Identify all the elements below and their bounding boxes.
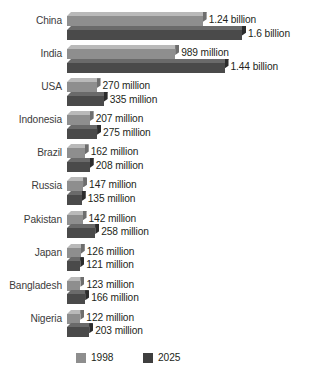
- bar-brazil-2025[interactable]: [67, 158, 90, 173]
- face-front: [67, 228, 95, 238]
- chart-row: Nigeria122 million203 million: [0, 309, 315, 342]
- category-label-china: China: [0, 15, 62, 26]
- chart-row: USA270 million335 million: [0, 77, 315, 110]
- face-side: [89, 323, 93, 333]
- bar-india-2025[interactable]: [67, 59, 225, 74]
- value-label-nigeria-2025: 203 million: [95, 325, 143, 336]
- category-label-nigeria: Nigeria: [0, 313, 62, 324]
- face-front: [67, 129, 97, 139]
- chart-row: China1.24 billion1.6 billion: [0, 11, 315, 44]
- bar-body: [67, 228, 95, 238]
- value-label-india-2025: 1.44 billion: [231, 61, 279, 72]
- face-front: [67, 16, 203, 26]
- bar-body: [67, 129, 97, 139]
- value-label-india-1998: 989 million: [181, 47, 229, 58]
- face-side: [97, 125, 101, 135]
- face-front: [67, 162, 90, 172]
- legend-item-1998[interactable]: 1998: [76, 352, 113, 363]
- face-front: [67, 115, 90, 125]
- legend-label-1998: 1998: [91, 352, 113, 363]
- value-label-pakistan-1998: 142 million: [89, 213, 137, 224]
- value-label-japan-2025: 121 million: [86, 259, 134, 270]
- value-label-bangladesh-1998: 123 million: [86, 279, 134, 290]
- chart-row: Russia147 million135 million: [0, 176, 315, 209]
- face-front: [67, 49, 175, 59]
- bar-indonesia-2025[interactable]: [67, 125, 97, 140]
- face-side: [80, 310, 84, 320]
- value-label-brazil-2025: 208 million: [96, 160, 144, 171]
- value-label-bangladesh-2025: 166 million: [91, 292, 139, 303]
- face-side: [97, 78, 101, 88]
- bar-body: [67, 162, 90, 172]
- category-label-japan: Japan: [0, 247, 62, 258]
- value-label-indonesia-2025: 275 million: [103, 127, 151, 138]
- bar-russia-2025[interactable]: [67, 191, 82, 206]
- face-side: [82, 191, 86, 201]
- value-label-brazil-1998: 162 million: [91, 146, 139, 157]
- bar-usa-2025[interactable]: [67, 92, 104, 107]
- chart-plot-area: China1.24 billion1.6 billionIndia989 mil…: [0, 11, 315, 342]
- face-side: [95, 224, 99, 234]
- bar-body: [67, 195, 82, 205]
- bar-body: [67, 115, 90, 125]
- chart-legend: 1998 2025: [0, 352, 315, 368]
- face-front: [67, 181, 83, 191]
- face-front: [67, 96, 104, 106]
- face-front: [67, 82, 97, 92]
- chart-row: India989 million1.44 billion: [0, 44, 315, 77]
- face-side: [81, 244, 85, 254]
- category-label-brazil: Brazil: [0, 147, 62, 158]
- chart-row: Indonesia207 million275 million: [0, 110, 315, 143]
- face-side: [83, 177, 87, 187]
- legend-swatch-1998: [76, 353, 86, 363]
- face-side: [80, 257, 84, 267]
- value-label-indonesia-1998: 207 million: [96, 113, 144, 124]
- bar-pakistan-2025[interactable]: [67, 224, 95, 239]
- face-side: [242, 26, 246, 36]
- bar-body: [67, 261, 80, 271]
- category-label-pakistan: Pakistan: [0, 214, 62, 225]
- category-label-russia: Russia: [0, 180, 62, 191]
- face-side: [90, 111, 94, 121]
- face-side: [85, 290, 89, 300]
- bar-body: [67, 30, 242, 40]
- value-label-japan-1998: 126 million: [87, 246, 135, 257]
- chart-row: Bangladesh123 million166 million: [0, 276, 315, 309]
- bar-body: [67, 82, 97, 92]
- chart-row: Pakistan142 million258 million: [0, 210, 315, 243]
- value-label-china-2025: 1.6 billion: [248, 28, 290, 39]
- value-label-russia-1998: 147 million: [89, 179, 137, 190]
- chart-row: Japan126 million121 million: [0, 243, 315, 276]
- bar-bangladesh-2025[interactable]: [67, 290, 85, 305]
- face-side: [85, 144, 89, 154]
- face-side: [225, 59, 229, 69]
- category-label-bangladesh: Bangladesh: [0, 280, 62, 291]
- face-front: [67, 63, 225, 73]
- bar-body: [67, 294, 85, 304]
- bar-body: [67, 16, 203, 26]
- face-front: [67, 195, 82, 205]
- bar-body: [67, 327, 89, 337]
- face-front: [67, 30, 242, 40]
- bar-body: [67, 181, 83, 191]
- face-front: [67, 327, 89, 337]
- face-side: [104, 92, 108, 102]
- legend-label-2025: 2025: [158, 352, 180, 363]
- face-side: [83, 211, 87, 221]
- bar-body: [67, 148, 85, 158]
- value-label-pakistan-2025: 258 million: [101, 226, 149, 237]
- value-label-nigeria-1998: 122 million: [86, 312, 134, 323]
- chart-row: Brazil162 million208 million: [0, 143, 315, 176]
- bar-china-2025[interactable]: [67, 26, 242, 41]
- bar-body: [67, 49, 175, 59]
- bar-nigeria-2025[interactable]: [67, 323, 89, 338]
- bar-body: [67, 96, 104, 106]
- face-side: [90, 158, 94, 168]
- face-side: [175, 45, 179, 55]
- legend-item-2025[interactable]: 2025: [143, 352, 180, 363]
- value-label-usa-2025: 335 million: [110, 94, 158, 105]
- category-label-india: India: [0, 48, 62, 59]
- bar-japan-2025[interactable]: [67, 257, 80, 272]
- value-label-china-1998: 1.24 billion: [209, 14, 257, 25]
- value-label-russia-2025: 135 million: [88, 193, 136, 204]
